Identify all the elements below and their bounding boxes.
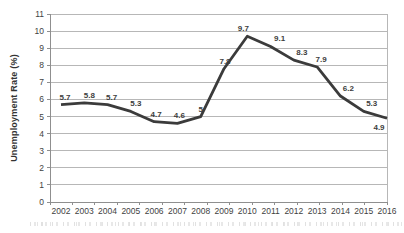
svg-text:10: 10: [35, 26, 45, 36]
svg-text:2003: 2003: [75, 206, 94, 216]
svg-text:4: 4: [39, 129, 44, 139]
svg-text:2002: 2002: [52, 206, 71, 216]
svg-text:8.3: 8.3: [296, 48, 308, 57]
svg-text:7.8: 7.8: [219, 57, 231, 66]
cropped-caption-remnant: [30, 222, 402, 226]
svg-text:6: 6: [39, 94, 44, 104]
svg-text:2: 2: [39, 163, 44, 173]
series-line: [61, 36, 387, 123]
svg-text:2014: 2014: [331, 206, 350, 216]
svg-text:0: 0: [39, 197, 44, 207]
svg-text:3: 3: [39, 146, 44, 156]
svg-text:5.7: 5.7: [106, 93, 118, 102]
svg-text:1: 1: [39, 180, 44, 190]
svg-text:2016: 2016: [378, 206, 397, 216]
unemployment-rate-line-chart: Unemployment Rate (%) 01234567891011 200…: [0, 0, 404, 233]
svg-text:2010: 2010: [238, 206, 257, 216]
y-tick-labels: 01234567891011: [35, 9, 45, 207]
svg-text:5: 5: [198, 105, 203, 114]
svg-text:2008: 2008: [191, 206, 210, 216]
svg-text:2005: 2005: [121, 206, 140, 216]
chart-svg: 01234567891011 2002200320042005200620072…: [0, 0, 404, 233]
svg-text:5: 5: [39, 112, 44, 122]
svg-text:4.6: 4.6: [174, 111, 186, 120]
svg-text:4.7: 4.7: [151, 110, 163, 119]
svg-text:2004: 2004: [98, 206, 117, 216]
svg-text:8: 8: [39, 60, 44, 70]
svg-text:2011: 2011: [261, 206, 280, 216]
svg-text:7: 7: [39, 77, 44, 87]
svg-text:2006: 2006: [145, 206, 164, 216]
svg-text:5.3: 5.3: [130, 99, 142, 108]
svg-text:4.9: 4.9: [373, 123, 385, 132]
svg-text:7.9: 7.9: [316, 55, 328, 64]
svg-text:2007: 2007: [168, 206, 187, 216]
svg-text:9.7: 9.7: [238, 24, 250, 33]
gridlines: [50, 14, 387, 202]
svg-text:5.3: 5.3: [366, 99, 378, 108]
svg-text:9.1: 9.1: [274, 34, 286, 43]
svg-text:11: 11: [35, 9, 44, 19]
svg-text:2015: 2015: [354, 206, 373, 216]
x-tick-labels: 2002200320042005200620072008200920102011…: [52, 206, 397, 216]
svg-text:5.7: 5.7: [59, 93, 71, 102]
svg-text:5.8: 5.8: [84, 91, 96, 100]
svg-text:9: 9: [39, 43, 44, 53]
svg-text:2013: 2013: [308, 206, 327, 216]
axes: [50, 14, 387, 202]
svg-text:2009: 2009: [215, 206, 234, 216]
svg-text:6.2: 6.2: [343, 84, 355, 93]
svg-text:2012: 2012: [284, 206, 303, 216]
